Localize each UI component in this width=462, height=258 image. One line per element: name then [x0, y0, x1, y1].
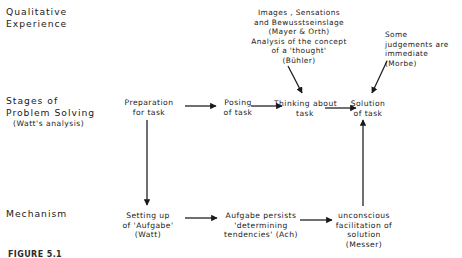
stage-posing: Posing of task — [216, 98, 260, 117]
mechanism-aufgabe-persists: Aufgabe persists 'determining tendencies… — [218, 211, 304, 240]
row-label-mechanism: Mechanism — [6, 208, 67, 220]
mechanism-unconscious-facilitation: unconscious facilitation of solution (Me… — [330, 211, 398, 249]
figure-diagram: Qualitative Experience Stages of Problem… — [0, 0, 462, 258]
row-sublabel-watts-analysis: (Watt's analysis) — [13, 119, 84, 129]
mechanism-setting-up-aufgabe: Setting up of 'Aufgabe' (Watt) — [117, 211, 179, 240]
row-label-stages-of-problem-solving: Stages of Problem Solving — [6, 95, 95, 118]
row-label-qualitative-experience: Qualitative Experience — [6, 6, 67, 29]
figure-caption: FIGURE 5.1 — [8, 250, 62, 258]
images-sensations-annotation: Images , Sensations and Bewusstseinslage… — [231, 8, 367, 66]
stage-solution: Solution of task — [344, 99, 392, 118]
stage-thinking: Thinking about task — [274, 99, 336, 118]
some-judgements-annotation: Some judgements are immediate (Morbe) — [385, 30, 462, 68]
arrow-buhler-to-thinking — [288, 66, 302, 93]
stage-preparation: Preparation for task — [118, 98, 180, 117]
